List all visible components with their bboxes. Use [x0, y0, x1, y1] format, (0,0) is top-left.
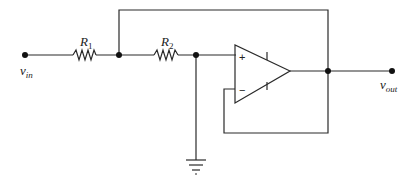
node-plus — [193, 52, 199, 58]
resistor-r2 — [154, 50, 178, 60]
node-r1-r2 — [116, 52, 122, 58]
circuit-diagram: R1 R2 vin vout + − — [0, 0, 417, 182]
wire-feedback-minus — [224, 71, 328, 133]
circuit-svg: R1 R2 vin vout + − — [0, 0, 417, 182]
node-vin — [22, 52, 28, 58]
node-vout — [389, 68, 395, 74]
node-output — [325, 68, 331, 74]
label-r2: R2 — [160, 34, 173, 51]
opamp-minus-sign: − — [239, 84, 245, 96]
opamp-plus-sign: + — [239, 51, 245, 63]
label-r1: R1 — [79, 34, 92, 51]
label-vout: vout — [380, 77, 398, 94]
resistor-r1 — [73, 50, 96, 60]
label-vin: vin — [20, 63, 33, 80]
wire-feedback-top — [119, 10, 328, 71]
